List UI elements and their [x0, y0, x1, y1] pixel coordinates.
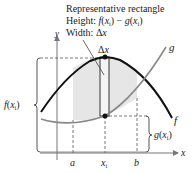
- y-axis-label: y: [54, 28, 59, 38]
- x-axis-label: x: [180, 147, 186, 158]
- area-between-curves-diagram: Representative rectangle Height: f(xi) −…: [0, 0, 192, 173]
- tick-b: b: [134, 157, 139, 168]
- title-line3: Width: Δx: [66, 27, 107, 38]
- delta-x-label: Δx: [98, 44, 109, 55]
- representative-rectangle: [100, 57, 109, 116]
- f-label: f: [174, 114, 179, 126]
- title-line1: Representative rectangle: [66, 3, 165, 14]
- brace-g-xi: [146, 116, 152, 152]
- point-f-xi: [103, 55, 108, 60]
- tick-xi: xi: [100, 157, 107, 169]
- title-line2: Height: f(xi) − g(xi): [66, 15, 143, 27]
- f-xi-label: f(xi): [4, 99, 20, 111]
- point-g-xi: [103, 114, 108, 119]
- g-label: g: [169, 41, 175, 53]
- brace-f-xi: [34, 58, 40, 152]
- tick-a: a: [70, 157, 75, 168]
- g-xi-label: g(xi): [154, 129, 172, 141]
